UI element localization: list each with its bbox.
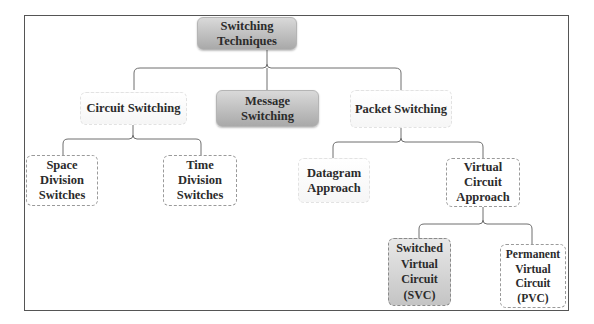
node-switched-virtual-circuit: Switched Virtual Circuit (SVC)	[388, 238, 451, 306]
connector-root	[134, 50, 267, 90]
node-switching-techniques: Switching Techniques	[197, 17, 297, 50]
connector-virtual-circuit	[419, 207, 483, 238]
connector-circuit	[63, 125, 133, 155]
node-space-division-switches: Space Division Switches	[26, 155, 98, 206]
connector-packet	[333, 128, 401, 158]
node-virtual-circuit-approach: Virtual Circuit Approach	[446, 158, 520, 207]
node-datagram-approach: Datagram Approach	[298, 158, 370, 203]
node-time-division-switches: Time Division Switches	[163, 155, 237, 206]
node-packet-switching: Packet Switching	[350, 90, 452, 128]
node-permanent-virtual-circuit: Permanent Virtual Circuit (PVC)	[500, 244, 566, 308]
node-message-switching: Message Switching	[216, 90, 319, 127]
node-circuit-switching: Circuit Switching	[80, 92, 187, 125]
